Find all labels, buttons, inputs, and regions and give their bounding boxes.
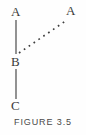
figure-caption: FIGURE 3.5: [0, 117, 86, 128]
vertex-label-a-top: A: [11, 5, 20, 18]
segment-b-to-a-right-dotted: [19, 20, 67, 53]
figure-3-5: A A B C FIGURE 3.5: [0, 0, 86, 135]
vertex-label-a-right: A: [66, 4, 75, 17]
vertex-label-b: B: [11, 55, 20, 68]
vertex-label-c: C: [11, 99, 20, 112]
